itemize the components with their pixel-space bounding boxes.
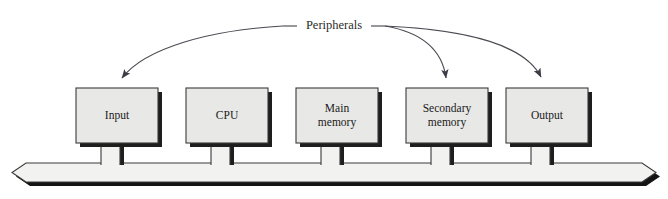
box-label-line: memory xyxy=(318,115,357,128)
box-label-input: Input xyxy=(105,108,130,121)
box-label-secondary-memory: Secondarymemory xyxy=(423,101,472,128)
box-label-line: Secondary xyxy=(423,101,472,114)
computer-architecture-diagram: InputCPUMainmemorySecondarymemoryOutput … xyxy=(0,0,668,199)
peripherals-label: Peripherals xyxy=(306,18,362,32)
box-label-line: CPU xyxy=(216,108,239,120)
system-bus xyxy=(12,163,660,186)
box-label-line: Main xyxy=(325,101,350,113)
box-label-line: Output xyxy=(531,108,564,121)
box-label-line: Input xyxy=(105,108,130,121)
box-label-output: Output xyxy=(531,108,564,121)
box-label-cpu: CPU xyxy=(216,108,239,120)
box-label-line: memory xyxy=(428,115,467,128)
system-bus-body xyxy=(12,163,656,182)
